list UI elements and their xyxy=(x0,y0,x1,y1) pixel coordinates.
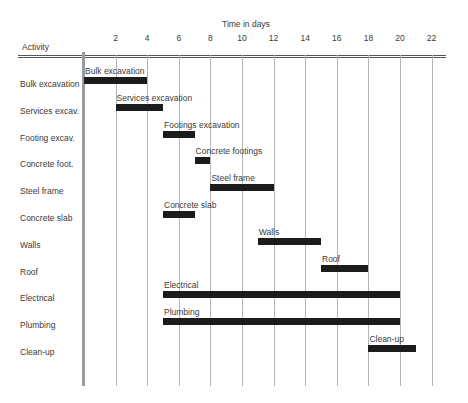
task-bar-label: Roof xyxy=(322,255,340,264)
gridline xyxy=(274,55,275,386)
activity-label: Walls xyxy=(20,241,40,250)
x-tick-label: 18 xyxy=(364,34,373,43)
x-tick-label: 2 xyxy=(113,34,118,43)
task-bar-label: Walls xyxy=(259,228,279,237)
x-tick-label: 10 xyxy=(237,34,246,43)
task-bar-label: Electrical xyxy=(164,281,198,290)
task-bar xyxy=(163,318,400,325)
x-tick-label: 22 xyxy=(427,34,436,43)
activity-label: Footing excav. xyxy=(20,134,75,143)
gridline xyxy=(210,55,211,386)
task-bar xyxy=(258,238,321,245)
gridline xyxy=(337,55,338,386)
task-bar xyxy=(210,184,273,191)
gridline xyxy=(179,55,180,386)
task-bar-label: Steel frame xyxy=(211,174,254,183)
x-tick-label: 16 xyxy=(332,34,341,43)
task-bar xyxy=(321,265,368,272)
task-bar xyxy=(163,131,195,138)
x-axis-title: Time in days xyxy=(222,20,270,29)
task-bar-label: Concrete footings xyxy=(196,147,263,156)
task-bar-label: Services excavation xyxy=(117,94,193,103)
task-bar xyxy=(116,104,163,111)
gridline xyxy=(305,55,306,386)
x-tick-label: 14 xyxy=(300,34,309,43)
task-bar xyxy=(84,77,147,84)
task-bar-label: Concrete slab xyxy=(164,201,216,210)
activity-label: Steel frame xyxy=(20,187,63,196)
activity-label: Clean-up xyxy=(20,348,55,357)
gridline xyxy=(242,55,243,386)
x-tick-label: 8 xyxy=(208,34,213,43)
activity-label: Concrete slab xyxy=(20,214,72,223)
x-tick-label: 20 xyxy=(395,34,404,43)
task-bar xyxy=(163,211,195,218)
x-tick-label: 12 xyxy=(269,34,278,43)
gantt-chart: Time in days Activity 246810121416182022… xyxy=(0,0,468,403)
task-bar xyxy=(195,157,211,164)
activity-label: Plumbing xyxy=(20,321,55,330)
activity-label: Electrical xyxy=(20,294,54,303)
activity-label: Bulk excavation xyxy=(20,80,80,89)
time-zero-axis xyxy=(82,52,85,386)
x-tick-label: 4 xyxy=(145,34,150,43)
task-bar-label: Clean-up xyxy=(369,335,404,344)
task-bar xyxy=(163,291,400,298)
activity-label: Services excav. xyxy=(20,107,79,116)
activity-label: Roof xyxy=(20,268,38,277)
gridline xyxy=(432,55,433,386)
task-bar xyxy=(368,345,415,352)
task-bar-label: Plumbing xyxy=(164,308,199,317)
x-tick-label: 6 xyxy=(176,34,181,43)
activity-column-header: Activity xyxy=(22,43,49,52)
task-bar-label: Footings excavation xyxy=(164,121,240,130)
activity-label: Concrete foot. xyxy=(20,160,73,169)
task-bar-label: Bulk excavation xyxy=(85,67,145,76)
